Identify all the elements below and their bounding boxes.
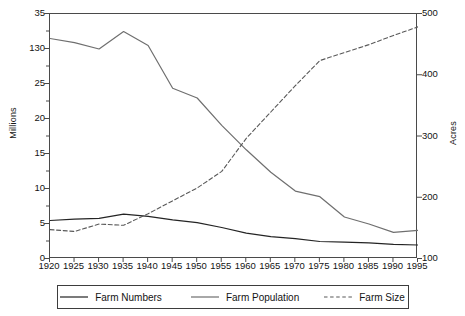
x-tick-label: 1945 xyxy=(161,261,182,271)
y-right-tick-label: 400 xyxy=(422,70,438,80)
x-tick-label: 1985 xyxy=(357,261,378,271)
x-tick-label: 1980 xyxy=(333,261,354,271)
x-tick-label: 1935 xyxy=(112,261,133,271)
legend-line-swatch-dashed xyxy=(323,292,353,302)
y-left-tick-label: 25 xyxy=(34,78,45,88)
y-right-tick-label: 300 xyxy=(422,131,438,141)
y-left-tick-label: 35 xyxy=(34,8,45,18)
y-left-tick-label: 15 xyxy=(34,148,45,158)
x-tick-label: 1925 xyxy=(63,261,84,271)
series-line-farm-numbers xyxy=(50,214,418,245)
legend-item-farm-size: Farm Size xyxy=(323,292,409,303)
legend-item-farm-numbers: Farm Numbers xyxy=(59,292,166,303)
legend-label: Farm Size xyxy=(353,292,409,303)
series-line-farm-size xyxy=(50,27,418,232)
series-lines xyxy=(50,14,418,259)
farm-trends-chart: Millions Acres 051015202513035 100200300… xyxy=(0,0,465,316)
legend-line-swatch-solid-gray xyxy=(190,292,220,302)
legend-item-farm-population: Farm Population xyxy=(190,292,303,303)
y-right-tick-label: 500 xyxy=(422,8,438,18)
legend-label: Farm Population xyxy=(220,292,303,303)
chart-legend: Farm Numbers Farm Population Farm Size xyxy=(57,285,409,309)
x-tick-label: 1960 xyxy=(235,261,256,271)
plot-area xyxy=(49,13,417,258)
x-tick-label: 1965 xyxy=(259,261,280,271)
series-line-farm-population xyxy=(50,32,418,233)
x-tick-label: 1955 xyxy=(210,261,231,271)
x-tick-label: 1995 xyxy=(406,261,427,271)
legend-label: Farm Numbers xyxy=(89,292,166,303)
x-tick-label: 1930 xyxy=(87,261,108,271)
y-left-tick-label: 20 xyxy=(34,113,45,123)
y-left-tick-label: 5 xyxy=(40,218,45,228)
x-tick-label: 1920 xyxy=(38,261,59,271)
y-right-tick-label: 200 xyxy=(422,192,438,202)
x-tick-label: 1975 xyxy=(308,261,329,271)
x-tick-label: 1970 xyxy=(284,261,305,271)
x-tick-label: 1950 xyxy=(186,261,207,271)
x-axis-tick-labels: 1920192519301935194019451950195519601965… xyxy=(0,261,465,277)
y-left-tick-label: 10 xyxy=(34,183,45,193)
legend-line-swatch-solid-dark xyxy=(59,292,89,302)
x-tick-label: 1940 xyxy=(137,261,158,271)
x-tick-label: 1990 xyxy=(382,261,403,271)
y-left-tick-label: 130 xyxy=(29,43,45,53)
